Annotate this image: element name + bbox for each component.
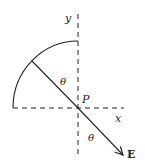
radius-line	[32, 61, 78, 108]
theta-lower-label: θ	[88, 132, 94, 143]
theta-upper-label: θ	[60, 76, 66, 87]
point-p-label: P	[81, 93, 90, 106]
vector-e-label: E	[127, 148, 135, 161]
field-diagram: y x P θ θ E	[0, 0, 145, 168]
x-axis-label: x	[115, 112, 122, 125]
y-axis-label: y	[64, 12, 72, 25]
